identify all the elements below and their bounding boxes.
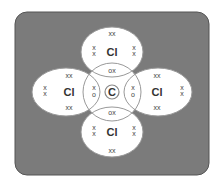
- cl-bottom-label: Cl: [107, 126, 118, 138]
- carbon-label: C: [108, 86, 116, 98]
- electron: x: [92, 50, 96, 57]
- electron-pair: xx: [66, 104, 74, 111]
- electron: x: [180, 90, 184, 97]
- electron: x: [92, 130, 96, 137]
- electron-pair: xx: [109, 30, 117, 37]
- electron: x: [132, 50, 136, 57]
- electron-pair: xx: [109, 147, 117, 154]
- electron-pair: xx: [154, 104, 162, 111]
- ccl4-diagram: C Cl Cl Cl Cl xx x x x x xx x x x x xx x…: [0, 0, 220, 183]
- cl-left-label: Cl: [64, 86, 75, 98]
- shared-electron-right-x: x: [131, 84, 135, 91]
- electron-pair: xx: [154, 72, 162, 79]
- electron: x: [132, 130, 136, 137]
- electron-pair: xx: [66, 72, 74, 79]
- cl-top-label: Cl: [107, 46, 118, 58]
- shared-electron-left-o: o: [92, 91, 96, 98]
- shared-electron-left-x: x: [92, 84, 96, 91]
- electron: x: [43, 90, 47, 97]
- shared-pair-bottom: ox: [108, 109, 116, 116]
- shared-electron-right-o: o: [131, 91, 135, 98]
- shared-pair-top: ox: [108, 67, 116, 74]
- cl-right-label: Cl: [152, 86, 163, 98]
